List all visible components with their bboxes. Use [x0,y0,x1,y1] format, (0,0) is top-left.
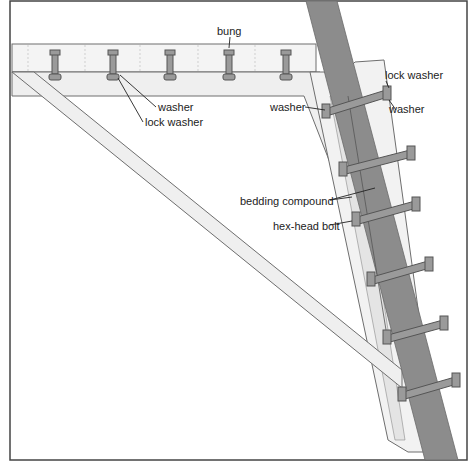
label-lock-washer-top: lock washer [145,116,203,128]
bracket-joint-diagram: bung washer lock washer lock washer wash… [0,0,468,463]
label-bung: bung [217,25,241,37]
bracket-horizontal-arm [12,72,362,214]
label-bedding-compound: bedding compound [240,195,334,207]
label-washer-right: washer [388,103,425,115]
label-washer-top: washer [157,101,194,113]
label-hex-head-bolt: hex-head bolt [273,220,340,232]
label-lock-washer-right: lock washer [385,69,443,81]
label-washer-left: washer [269,101,306,113]
diagram-frame: bung washer lock washer lock washer wash… [0,0,468,463]
